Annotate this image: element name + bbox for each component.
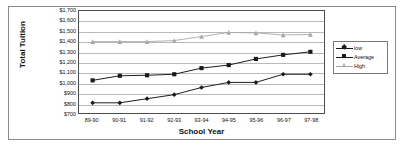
- legend-swatch-diamond-icon: [336, 44, 353, 53]
- y-axis-tick-label: $1,700: [44, 7, 76, 13]
- data-point-marker: [281, 72, 286, 77]
- legend-swatch-triangle-icon: [336, 62, 353, 71]
- data-point-marker: [308, 50, 312, 54]
- data-point-marker: [90, 100, 95, 105]
- data-point-marker: [308, 72, 313, 77]
- data-point-marker: [281, 53, 285, 57]
- y-axis-tick-label: $1,100: [44, 69, 76, 75]
- series-high: [90, 30, 313, 44]
- y-axis-tick-label: $1,600: [44, 17, 76, 23]
- x-axis-tick-label: 97-98: [291, 117, 331, 123]
- data-point-marker: [199, 85, 204, 90]
- legend-label: low: [353, 44, 362, 53]
- series-low: [90, 72, 313, 105]
- legend-label: Average: [353, 53, 374, 62]
- data-point-marker: [91, 78, 95, 82]
- x-axis-title: School Year: [78, 127, 325, 136]
- legend-item-low[interactable]: low: [336, 44, 385, 53]
- data-point-marker: [254, 80, 259, 85]
- legend-label: High: [353, 62, 365, 71]
- data-point-marker: [199, 66, 203, 70]
- legend-item-high[interactable]: High: [336, 62, 385, 71]
- plot-area: [78, 10, 325, 114]
- chart-figure: Total Tuition $1,700$1,600$1,500$1,400$1…: [0, 0, 408, 151]
- data-point-marker: [172, 72, 176, 76]
- y-axis-tick-label: $1,400: [44, 38, 76, 44]
- y-axis-tick-labels: $1,700$1,600$1,500$1,400$1,300$1,200$1,1…: [44, 10, 76, 114]
- legend-item-average[interactable]: Average: [336, 53, 385, 62]
- y-axis-title: Total Tuition: [18, 1, 27, 89]
- y-axis-tick-label: $800: [44, 101, 76, 107]
- y-axis-tick-label: $1,200: [44, 59, 76, 65]
- series-layer: [79, 11, 324, 113]
- data-point-marker: [118, 74, 122, 78]
- data-point-marker: [117, 100, 122, 105]
- chart-legend: lowAverageHigh: [333, 41, 388, 74]
- y-axis-tick-label: $1,300: [44, 49, 76, 55]
- data-point-marker: [226, 80, 231, 85]
- legend-swatch-square-icon: [336, 53, 353, 62]
- y-axis-tick-label: $900: [44, 90, 76, 96]
- series-average: [91, 50, 313, 83]
- y-axis-tick-label: $1,000: [44, 80, 76, 86]
- data-point-marker: [145, 96, 150, 101]
- x-axis-tick-labels: 89-9090-9191-9292-9393-9494-9595-9696-97…: [78, 117, 325, 127]
- data-point-marker: [254, 57, 258, 61]
- data-point-marker: [227, 63, 231, 67]
- data-point-marker: [145, 73, 149, 77]
- y-axis-tick-label: $1,500: [44, 28, 76, 34]
- data-point-marker: [172, 92, 177, 97]
